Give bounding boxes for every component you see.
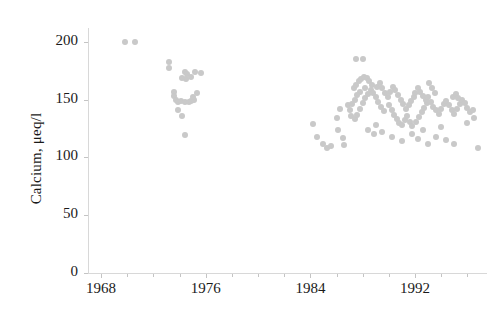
data-point [438,124,444,130]
x-minor-tick-1994 [441,274,442,277]
data-point [341,142,347,148]
data-point [314,134,320,140]
data-point [357,106,363,112]
x-tick-label-1968: 1968 [71,280,131,297]
data-point [340,135,346,141]
data-point [399,138,405,144]
x-tick-label-1976: 1976 [176,280,236,297]
y-tick-label-100: 100 [32,147,78,164]
data-point [179,113,185,119]
data-point [310,121,316,127]
data-point [179,75,185,81]
data-point [389,134,395,140]
data-point [198,70,204,76]
y-tick-label-150: 150 [32,90,78,107]
x-minor-tick-1988 [363,274,364,277]
data-point [451,141,457,147]
data-point [432,90,438,96]
x-minor-tick-1990 [389,274,390,277]
data-point [475,145,481,151]
data-point [353,56,359,62]
data-point [328,143,334,149]
y-tick-50 [84,215,88,216]
data-point [415,136,421,142]
x-minor-tick-1974 [180,274,181,277]
x-tick-1984 [310,274,311,278]
data-point [182,132,188,138]
y-tick-150 [84,100,88,101]
data-point [166,59,172,65]
x-axis-spine [88,273,487,274]
data-point [385,94,391,100]
data-point [335,127,341,133]
data-point [122,39,128,45]
data-point [373,122,379,128]
data-point [360,56,366,62]
x-tick-1968 [101,274,102,278]
data-point [365,127,371,133]
data-point [354,112,360,118]
data-point [464,120,470,126]
data-point [132,39,138,45]
y-tick-100 [84,157,88,158]
data-point [420,127,426,133]
x-minor-tick-1972 [153,274,154,277]
data-point [425,141,431,147]
x-minor-tick-1970 [127,274,128,277]
x-tick-label-1992: 1992 [385,280,445,297]
data-point [379,129,385,135]
data-point [381,108,387,114]
x-tick-1992 [415,274,416,278]
plot-area [88,28,487,273]
x-tick-label-1984: 1984 [280,280,340,297]
data-point [166,65,172,71]
x-minor-tick-1982 [284,274,285,277]
y-tick-0 [84,273,88,274]
y-tick-label-200: 200 [32,32,78,49]
data-point [470,107,476,113]
y-tick-200 [84,42,88,43]
data-point [334,115,340,121]
data-point [404,113,410,119]
x-minor-tick-1978 [232,274,233,277]
data-point [443,137,449,143]
y-tick-label-0: 0 [32,263,78,280]
x-minor-tick-1986 [337,274,338,277]
y-tick-label-50: 50 [32,205,78,222]
data-point [433,134,439,140]
x-minor-tick-1996 [467,274,468,277]
data-point [371,131,377,137]
data-point [337,106,343,112]
data-point [190,94,196,100]
x-minor-tick-1980 [258,274,259,277]
data-point [471,115,477,121]
y-axis-spine [88,28,89,273]
scatter-chart-figure: Calcium, μeq/l 050100150200 196819761984… [0,0,496,324]
x-tick-1976 [206,274,207,278]
